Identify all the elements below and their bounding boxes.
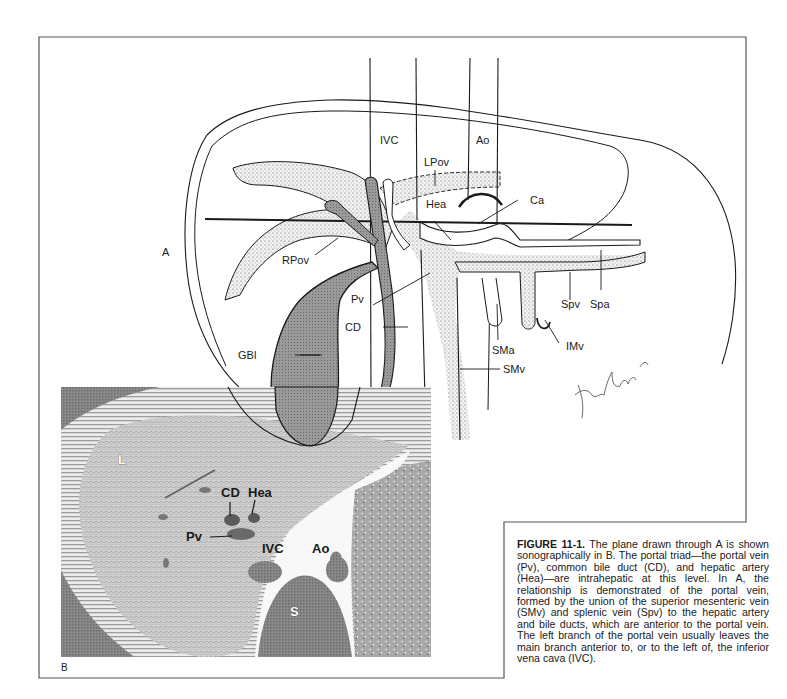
label-imv: IMv <box>566 340 584 352</box>
label-ivc: IVC <box>380 134 398 146</box>
label-gbl: GBl <box>238 349 256 361</box>
sonogram-cd-blob <box>224 514 240 526</box>
figure-caption: FIGURE 11-1. The plane drawn through A i… <box>517 539 769 664</box>
sonogram-label-cd: CD <box>221 485 240 500</box>
liver-inner-line-left <box>195 146 226 366</box>
label-smv: SMv <box>503 363 526 375</box>
panel-b-letter: B <box>61 662 68 673</box>
sonogram-label-hea: Hea <box>248 485 273 500</box>
celiac-arch <box>459 194 502 207</box>
sonogram-mottled-right <box>345 460 431 657</box>
label-spv: Spv <box>561 298 580 310</box>
sonogram-label-l: L <box>118 452 126 467</box>
caption-figure-number: FIGURE 11-1. <box>517 538 585 550</box>
label-sma: SMa <box>492 344 516 356</box>
imv-branch <box>537 318 550 328</box>
label-rpov: RPov <box>282 254 309 266</box>
hepatic-artery <box>420 222 640 247</box>
sonogram-label-ivc: IVC <box>262 541 284 556</box>
ao-line-right <box>497 58 498 222</box>
label-ca: Ca <box>530 194 545 206</box>
sonogram-hea-blob <box>248 513 260 523</box>
sonogram-label-s: S <box>290 604 299 619</box>
sonogram-pv-blob <box>227 528 255 540</box>
sonogram-small-blob-1 <box>158 514 168 520</box>
sonogram-ivc <box>248 561 282 583</box>
panel-a-letter: A <box>162 246 170 258</box>
panel-b-sonogram: L CD Hea Pv IVC Ao S <box>61 387 431 657</box>
ivc-line-left <box>370 58 371 400</box>
sonogram-small-blob-3 <box>199 487 211 493</box>
artist-signature <box>575 362 648 418</box>
caption-text: The plane drawn through A is shown sonog… <box>517 538 769 664</box>
sonogram-label-pv: Pv <box>186 529 203 544</box>
label-pv: Pv <box>351 293 364 305</box>
sonogram-small-blob-2 <box>163 558 169 568</box>
label-ao: Ao <box>476 134 489 146</box>
label-cd: CD <box>345 321 361 333</box>
label-spa: Spa <box>590 298 610 310</box>
sonogram-label-ao: Ao <box>312 541 329 556</box>
label-hea: Hea <box>426 198 447 210</box>
sma-branch <box>482 278 502 326</box>
label-lpov: LPov <box>424 156 450 168</box>
